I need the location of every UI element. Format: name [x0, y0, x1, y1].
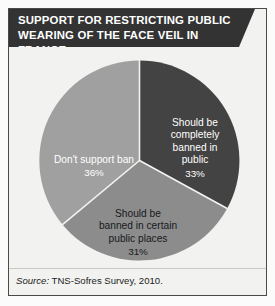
- pie-label-certain-places: Should be banned in certain public place…: [77, 195, 199, 271]
- pie-label-dont-support-text: Don't support ban: [54, 154, 134, 165]
- pie-label-dont-support-value: 36%: [41, 166, 147, 179]
- pie-label-certain-places-value: 31%: [77, 245, 199, 258]
- pie-chart: Should be completely banned in public 33…: [9, 47, 266, 268]
- pie-label-completely-banned-value: 33%: [157, 167, 233, 180]
- pie-label-completely-banned: Should be completely banned in public 33…: [157, 104, 233, 193]
- title-banner: SUPPORT FOR RESTRICTING PUBLIC WEARING O…: [9, 9, 255, 47]
- source-note: Source: TNS-Sofres Survey, 2010.: [16, 274, 260, 287]
- pie-label-dont-support: Don't support ban 36%: [41, 141, 147, 192]
- pie-label-certain-places-text: Should be banned in certain public place…: [99, 208, 177, 244]
- figure-card: SUPPORT FOR RESTRICTING PUBLIC WEARING O…: [8, 8, 267, 296]
- pie-label-completely-banned-text: Should be completely banned in public: [171, 117, 220, 166]
- source-text: TNS-Sofres Survey, 2010.: [49, 275, 163, 286]
- source-label: Source:: [16, 275, 49, 286]
